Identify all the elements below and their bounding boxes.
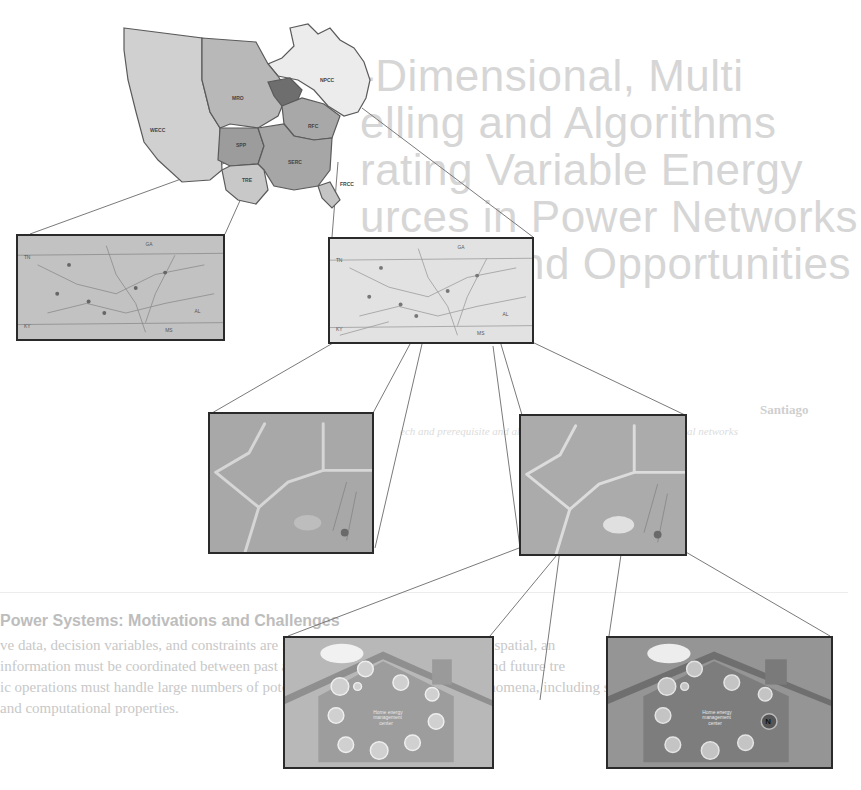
svg-text:MS: MS	[165, 328, 173, 333]
svg-text:management: management	[702, 715, 731, 720]
smart-home-left: Home energy management center	[283, 636, 494, 769]
svg-text:AL: AL	[195, 309, 201, 314]
background-title-line: urces in Power Networks	[360, 193, 861, 240]
continental-map: WECC MRO NPCC SPP RFC SERC TRE FRCC	[118, 20, 393, 210]
neighborhood-map-right	[519, 414, 687, 556]
svg-text:NPCC: NPCC	[320, 77, 335, 83]
background-author: Santiago	[760, 402, 808, 418]
background-divider	[0, 592, 848, 593]
background-section-heading: Power Systems: Motivations and Challenge…	[0, 612, 340, 630]
svg-text:AL: AL	[503, 312, 509, 317]
svg-text:Home energy: Home energy	[702, 710, 732, 715]
regional-grid-map-left: GA TN AL KY MS	[16, 234, 225, 341]
svg-text:RFC: RFC	[308, 123, 319, 129]
svg-text:WECC: WECC	[150, 127, 166, 133]
svg-text:SPP: SPP	[236, 142, 247, 148]
svg-text:center: center	[708, 721, 722, 726]
neighborhood-map-left	[208, 412, 374, 554]
regional-grid-map-right: GA TN AL KY MS	[328, 237, 534, 344]
background-title-line: elling and Algorithms	[360, 99, 861, 146]
svg-text:Home energy: Home energy	[373, 710, 403, 715]
svg-text:N: N	[765, 717, 771, 726]
svg-text:MS: MS	[477, 331, 485, 336]
svg-text:KY: KY	[336, 327, 343, 332]
svg-text:GA: GA	[457, 245, 465, 250]
svg-text:management: management	[373, 715, 402, 720]
svg-text:TRE: TRE	[242, 177, 253, 183]
background-title-line: -Dimensional, Multi	[360, 52, 861, 99]
svg-text:GA: GA	[146, 242, 154, 247]
svg-text:MRO: MRO	[232, 95, 244, 101]
svg-text:KY: KY	[24, 324, 31, 329]
smart-home-right: N Home energy management center	[606, 636, 833, 769]
svg-text:SERC: SERC	[288, 159, 302, 165]
svg-text:center: center	[379, 721, 393, 726]
svg-text:TN: TN	[24, 255, 31, 260]
svg-text:TN: TN	[336, 258, 343, 263]
background-title-line: rating Variable Energy	[360, 146, 861, 193]
svg-text:FRCC: FRCC	[340, 181, 354, 187]
